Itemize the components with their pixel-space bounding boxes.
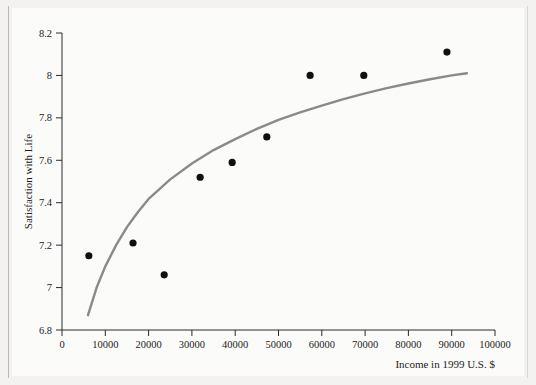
y-tick-label: 8.2 xyxy=(39,28,52,39)
x-tick-label: 30000 xyxy=(179,339,205,350)
y-tick-label: 6.8 xyxy=(39,325,52,336)
y-tick-label: 7.4 xyxy=(39,197,53,208)
y-tick-label: 7.2 xyxy=(39,240,52,251)
y-axis-title: Satisfaction with Life xyxy=(22,134,34,229)
plot-surface: 6.877.27.47.67.888.2 0100002000030000400… xyxy=(12,8,524,376)
x-tick-label: 40000 xyxy=(222,339,248,350)
x-tick-label: 100000 xyxy=(479,339,511,350)
scatter-chart: 6.877.27.47.67.888.2 0100002000030000400… xyxy=(12,8,524,376)
data-point xyxy=(443,48,450,55)
y-axis-tick-labels: 6.877.27.47.67.888.2 xyxy=(39,28,53,336)
axis-spines xyxy=(62,33,495,330)
data-point xyxy=(307,72,314,79)
data-point xyxy=(197,174,204,181)
x-tick-label: 90000 xyxy=(439,339,465,350)
x-tick-label: 60000 xyxy=(309,339,335,350)
y-tick-label: 7.6 xyxy=(39,155,52,166)
x-tick-label: 20000 xyxy=(135,339,161,350)
axis-group xyxy=(62,33,495,330)
x-tick-label: 70000 xyxy=(352,339,378,350)
chart-page: 6.877.27.47.67.888.2 0100002000030000400… xyxy=(0,0,536,385)
data-point xyxy=(360,72,367,79)
x-tick-label: 80000 xyxy=(395,339,421,350)
page-border-left xyxy=(8,6,9,378)
y-tick-label: 8 xyxy=(47,70,52,81)
data-point xyxy=(161,271,168,278)
x-tick-label: 10000 xyxy=(92,339,118,350)
logarithmic-trend-curve xyxy=(88,73,467,315)
trend-line-group xyxy=(88,73,467,315)
x-tick-label: 0 xyxy=(59,339,64,350)
y-tick-label: 7 xyxy=(47,282,52,293)
data-point xyxy=(129,239,136,246)
data-point-group xyxy=(85,48,450,278)
data-point xyxy=(229,159,236,166)
x-axis-tick-labels: 0100002000030000400005000060000700008000… xyxy=(59,339,510,350)
x-axis-title: Income in 1999 U.S. $ xyxy=(395,358,495,370)
x-axis-ticks xyxy=(62,330,495,336)
data-point xyxy=(263,133,270,140)
x-tick-label: 50000 xyxy=(265,339,291,350)
data-point xyxy=(85,252,92,259)
y-tick-label: 7.8 xyxy=(39,112,52,123)
y-axis-ticks xyxy=(56,33,62,330)
page-border-right xyxy=(527,6,528,378)
